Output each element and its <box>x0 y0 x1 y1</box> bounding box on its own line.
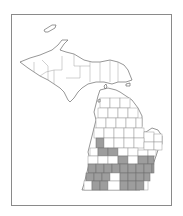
bois-blanc <box>126 83 130 86</box>
isle-royale <box>44 25 56 32</box>
michigan-county-map <box>0 0 183 216</box>
